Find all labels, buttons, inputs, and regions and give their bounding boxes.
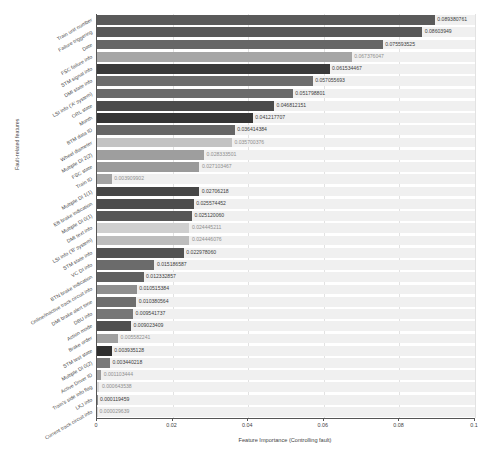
bar-value-label: 0.025574452 <box>196 201 226 206</box>
bar-track <box>97 346 475 356</box>
bar <box>97 113 253 123</box>
x-tick-label: 0.08 <box>393 422 404 428</box>
bar-row: 0.041217707 <box>97 113 475 123</box>
bar-value-label: 0.046812151 <box>276 103 306 108</box>
x-tick-label: 0.06 <box>318 422 329 428</box>
bar-value-label: 0.010380564 <box>139 299 169 304</box>
bar-row: 0.003440218 <box>97 358 475 368</box>
bar <box>97 236 189 246</box>
bar-value-label: 0.003909902 <box>114 177 144 182</box>
bar-value-label: 0.010515384 <box>139 287 169 292</box>
x-tick <box>398 418 399 421</box>
bar-row: 0.02706218 <box>97 187 475 197</box>
bar-value-label: 0.009023409 <box>134 324 164 329</box>
bar-row: 0.046812151 <box>97 101 475 111</box>
bar-value-label: 0.027103467 <box>202 164 232 169</box>
x-tick <box>247 418 248 421</box>
bar-row: 0.000119459 <box>97 395 475 405</box>
bar-row: 0.051798801 <box>97 89 475 99</box>
bar <box>97 358 110 368</box>
bar-value-label: 0.009541737 <box>136 311 166 316</box>
bar <box>97 321 131 331</box>
x-tick <box>96 418 97 421</box>
bar-track <box>97 395 475 405</box>
bar-row: 0.000643538 <box>97 382 475 392</box>
bar-row: 0.010380564 <box>97 297 475 307</box>
bar <box>97 334 118 344</box>
x-tick-label: 0.04 <box>242 422 253 428</box>
bar <box>97 52 352 62</box>
bar-row: 0.022978060 <box>97 248 475 258</box>
bar-row: 0.003935128 <box>97 346 475 356</box>
bar <box>97 199 194 209</box>
bar <box>97 150 204 160</box>
bar <box>97 162 199 172</box>
bar <box>97 125 235 135</box>
bar-row: 0.010515384 <box>97 285 475 295</box>
bar-value-label: 0.089380761 <box>437 18 467 23</box>
bar-value-label: 0.035700376 <box>234 140 264 145</box>
bar-row: 0.024446076 <box>97 236 475 246</box>
plot-area: 0.0893807610.086039490.0755935250.067376… <box>96 14 475 418</box>
bar <box>97 89 293 99</box>
bar-track <box>97 174 475 184</box>
bar-value-label: 0.067376047 <box>354 54 384 59</box>
bar <box>97 174 112 184</box>
bar-row: 0.000029639 <box>97 407 475 417</box>
bar-value-label: 0.024445211 <box>192 226 221 231</box>
bar-track <box>97 334 475 344</box>
bar <box>97 101 274 111</box>
x-tick-label: 0.02 <box>166 422 177 428</box>
bar-row: 0.036414384 <box>97 125 475 135</box>
gridline <box>475 14 476 418</box>
bar-row: 0.012332857 <box>97 272 475 282</box>
bar-value-label: 0.003440218 <box>113 360 143 365</box>
bar-row: 0.009541737 <box>97 309 475 319</box>
bar-value-label: 0.02706218 <box>202 189 229 194</box>
bar-value-label: 0.012332857 <box>146 275 176 280</box>
x-tick <box>323 418 324 421</box>
bar <box>97 27 422 37</box>
bar <box>97 76 313 86</box>
x-tick-label: 0 <box>95 422 98 428</box>
bar-row: 0.057055693 <box>97 76 475 86</box>
bar-track <box>97 358 475 368</box>
bar-row: 0.025574452 <box>97 199 475 209</box>
bar-row: 0.08603949 <box>97 27 475 37</box>
bar-row: 0.028333501 <box>97 150 475 160</box>
bar-row: 0.027103467 <box>97 162 475 172</box>
bar-value-label: 0.000643538 <box>102 385 132 390</box>
bar <box>97 187 199 197</box>
bar-row: 0.024445211 <box>97 223 475 233</box>
bar-row: 0.035700376 <box>97 138 475 148</box>
bar <box>97 248 184 258</box>
bar-row: 0.061534467 <box>97 64 475 74</box>
bar <box>97 223 189 233</box>
bar-value-label: 0.003935128 <box>114 348 144 353</box>
bar <box>97 272 144 282</box>
bar-value-label: 0.022978060 <box>186 250 216 255</box>
bar <box>97 382 99 392</box>
bar-row: 0.015186587 <box>97 260 475 270</box>
bar-row: 0.001103444 <box>97 370 475 380</box>
bar <box>97 211 192 221</box>
bar-value-label: 0.061534467 <box>332 67 362 72</box>
x-tick-label: 0.1 <box>470 422 478 428</box>
bar-value-label: 0.028333501 <box>207 152 237 157</box>
bar <box>97 346 112 356</box>
bar-value-label: 0.041217707 <box>255 116 285 121</box>
bar-value-label: 0.000119459 <box>100 397 129 402</box>
x-axis-title: Feature Importance (Controlling fault) <box>96 437 474 443</box>
bar <box>97 260 154 270</box>
bar-value-label: 0.001103444 <box>104 373 133 378</box>
bar <box>97 138 232 148</box>
bar <box>97 370 101 380</box>
x-tick <box>474 418 475 421</box>
bar-row: 0.067376047 <box>97 52 475 62</box>
bar-track <box>97 407 475 417</box>
bar <box>97 285 137 295</box>
bar-row: 0.009023409 <box>97 321 475 331</box>
bar-value-label: 0.057055693 <box>315 79 345 84</box>
bar-row: 0.089380761 <box>97 15 475 25</box>
bar-row: 0.025120060 <box>97 211 475 221</box>
